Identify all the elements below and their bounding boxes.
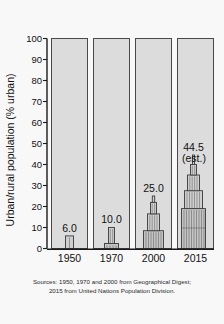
x-tick-label-2000: 2000 [142, 252, 166, 264]
source-line-2: 2015 from United Nations Population Divi… [8, 286, 216, 295]
bar-label-1970: 10.0 [101, 213, 122, 225]
x-tick-label-1970: 1970 [100, 252, 124, 264]
y-tick-label-60: 60 [31, 117, 42, 128]
source-line-1: Sources: 1950, 1970 and 2000 from Geogra… [8, 277, 216, 286]
y-tick-label-40: 40 [31, 159, 42, 170]
y-tick-label-20: 20 [31, 201, 42, 212]
x-tick-label-1950: 1950 [58, 252, 82, 264]
y-tick-label-90: 90 [31, 54, 42, 65]
chart-source-note: Sources: 1950, 1970 and 2000 from Geogra… [8, 277, 216, 295]
y-tick-label-70: 70 [31, 96, 42, 107]
bar-1950 [66, 236, 74, 249]
y-axis-label: Urban/rural population (% urban) [4, 74, 16, 227]
y-tick-label-50: 50 [31, 138, 42, 149]
bar-note-2015-text: (est.) [173, 152, 215, 164]
column-panel-1950 [52, 39, 88, 249]
y-tick-label-100: 100 [26, 33, 42, 44]
y-tick-label-30: 30 [31, 180, 42, 191]
x-tick-label-2015: 2015 [184, 252, 208, 264]
bar-label-1950: 6.0 [62, 222, 77, 234]
y-tick-label-10: 10 [31, 222, 42, 233]
bar-label-2000: 25.0 [143, 182, 164, 194]
y-tick-label-0: 0 [37, 243, 42, 254]
chart-figure: Urban/rural population (% urban) 100 90 … [0, 0, 224, 324]
y-tick-label-80: 80 [31, 75, 42, 86]
